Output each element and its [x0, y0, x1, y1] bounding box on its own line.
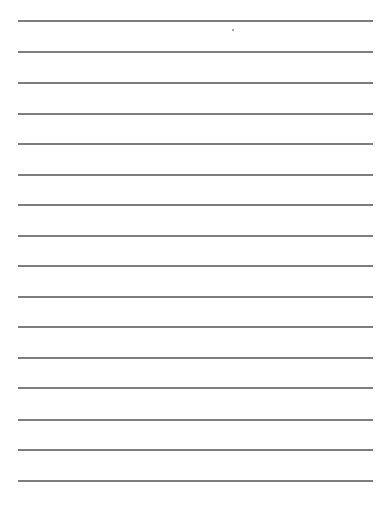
ruled-line	[18, 480, 373, 482]
ruled-line	[18, 51, 373, 53]
lined-paper-page	[0, 0, 390, 508]
ruled-line	[18, 449, 373, 451]
ruled-line	[18, 419, 373, 421]
ruled-line	[18, 113, 373, 115]
ruled-line	[18, 20, 373, 22]
ruled-line	[18, 82, 373, 84]
ruled-line	[18, 387, 373, 389]
ruled-line	[18, 326, 373, 328]
ruled-line	[18, 265, 373, 267]
ruled-line	[18, 204, 373, 206]
ruled-line	[18, 174, 373, 176]
stray-dot-mark	[232, 29, 234, 31]
ruled-line	[18, 143, 373, 145]
ruled-line	[18, 296, 373, 298]
ruled-line	[18, 235, 373, 237]
ruled-line	[18, 357, 373, 359]
